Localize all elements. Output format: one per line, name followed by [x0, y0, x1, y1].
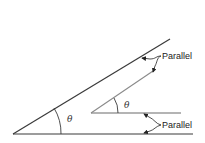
- small-angle-upper-line: [91, 71, 153, 113]
- parallel-label-top: Parallel: [162, 51, 192, 61]
- parallel-label-bottom: Parallel: [162, 120, 192, 130]
- small-angle: θ: [91, 71, 181, 113]
- parallel-annotation-bottom: Parallel: [144, 114, 192, 133]
- large-angle-upper-line: [13, 39, 170, 134]
- large-angle-theta-label: θ: [67, 114, 73, 124]
- arrow-to-small-base-line: [144, 114, 161, 125]
- small-angle-arc: [114, 98, 118, 113]
- large-angle-arc: [54, 108, 61, 134]
- parallel-annotation-top: Parallel: [142, 51, 192, 72]
- parallel-angles-diagram: θ θ Parallel Parallel: [0, 0, 205, 143]
- arrow-to-large-base-line: [144, 125, 161, 133]
- small-angle-theta-label: θ: [124, 100, 130, 110]
